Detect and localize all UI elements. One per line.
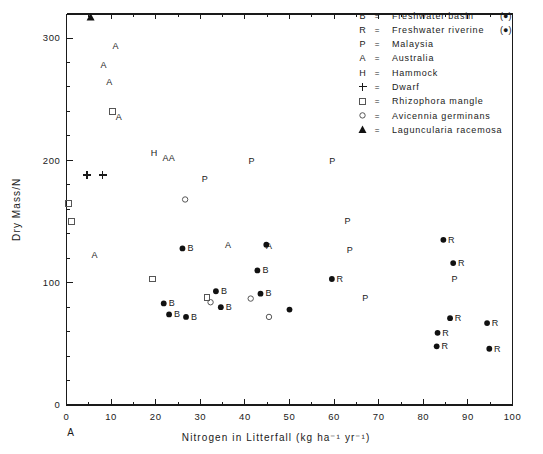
data-point-filled-circle: [440, 237, 446, 243]
x-tick-label: 60: [328, 411, 340, 422]
data-point-letter-a: A: [225, 240, 231, 250]
data-point-filled-circle: [166, 312, 172, 318]
y-axis-title: Dry Mass/N: [11, 178, 22, 241]
legend-equals: =: [375, 12, 380, 21]
data-point-open-square: [204, 294, 210, 300]
data-point-letter-b: B: [221, 286, 227, 296]
data-point-open-circle: [248, 296, 253, 301]
y-tick-label: 300: [43, 32, 61, 43]
data-point-letter-r: R: [442, 328, 449, 338]
data-point-letter-r: R: [448, 235, 455, 245]
legend-equals: =: [375, 54, 380, 63]
data-point-filled-circle: [254, 268, 260, 274]
data-point-letter-p: P: [202, 174, 208, 184]
x-tick-label: 10: [105, 411, 117, 422]
data-point-letter-r: R: [494, 344, 501, 354]
data-point-letter-r: R: [337, 274, 344, 284]
legend-label: Dwarf: [392, 82, 420, 92]
data-point-letter-a: A: [92, 250, 98, 260]
data-point-letter-p: P: [452, 274, 458, 284]
legend-label: Laguncularia racemosa: [392, 125, 502, 135]
legend-symbol-open-circle: [360, 113, 365, 118]
data-point-letter-p: P: [347, 245, 353, 255]
data-point-letter-a: A: [169, 153, 175, 163]
data-point-open-square: [149, 276, 155, 282]
legend-equals: =: [375, 112, 380, 121]
x-tick-label: 50: [284, 411, 296, 422]
x-tick-label: 30: [194, 411, 206, 422]
data-point-filled-circle: [435, 330, 441, 336]
legend-equals: =: [375, 69, 380, 78]
data-point-letter-a: A: [113, 41, 119, 51]
data-point-letter-p: P: [249, 156, 255, 166]
data-point-open-circle: [182, 197, 187, 202]
data-point-letter-b: B: [226, 302, 232, 312]
data-point-filled-circle: [486, 346, 492, 352]
x-tick-label: 40: [239, 411, 251, 422]
data-point-letter-r: R: [458, 258, 465, 268]
data-point-filled-circle: [434, 343, 440, 349]
legend-label: Hammock: [392, 68, 438, 78]
data-point-open-square: [69, 219, 75, 225]
data-point-letter-b: B: [169, 298, 175, 308]
legend-symbol-plus: [359, 83, 367, 91]
data-point-letter-a: A: [116, 112, 122, 122]
legend-label: Malaysia: [392, 39, 434, 49]
panel-label: A: [67, 427, 74, 438]
data-point-letter-r: R: [455, 313, 462, 323]
legend-note: (●): [500, 25, 511, 35]
data-point-filled-circle: [287, 307, 293, 313]
data-point-letter-r: R: [441, 341, 448, 351]
legend-symbol-open-square: [360, 98, 366, 104]
x-tick-label: 0: [64, 411, 70, 422]
data-point-open-circle: [208, 300, 213, 305]
data-point-filled-circle: [258, 291, 264, 297]
x-axis-title: Nitrogen in Litterfall (kg ha⁻¹ yr⁻¹): [182, 432, 371, 443]
data-point-letter-r: R: [492, 318, 499, 328]
legend-equals: =: [375, 126, 380, 135]
legend-note: (●): [500, 11, 511, 21]
legend-label: Avicennia germinans: [392, 111, 491, 121]
legend-label: Australia: [392, 53, 434, 63]
data-point-filled-circle: [447, 315, 453, 321]
data-point-letter-h: H: [151, 148, 158, 158]
legend-label: Freshwater riverine: [392, 25, 484, 35]
data-point-letter-b: B: [187, 243, 193, 253]
data-point-filled-circle: [450, 260, 456, 266]
legend-symbol-r: R: [359, 25, 366, 35]
x-tick-label: 70: [373, 411, 385, 422]
legend-label: Rhizophora mangle: [392, 96, 484, 106]
data-point-plus: [83, 171, 91, 179]
data-point-letter-b: B: [266, 288, 272, 298]
data-point-plus: [99, 171, 107, 179]
data-point-filled-circle: [329, 276, 335, 282]
data-point-letter-b: B: [262, 265, 268, 275]
data-point-open-circle: [266, 314, 271, 319]
y-tick-label: 100: [43, 277, 61, 288]
x-tick-label: 80: [417, 411, 429, 422]
x-tick-label: 20: [150, 411, 162, 422]
data-point-letter-a: A: [163, 153, 169, 163]
x-tick-label: 100: [504, 411, 522, 422]
figure-container: 01020304050607080901001002003000Nitrogen…: [0, 0, 543, 454]
legend-equals: =: [375, 40, 380, 49]
y-origin-label: 0: [55, 399, 61, 410]
data-point-filled-circle: [180, 246, 186, 252]
data-point-filled-circle: [263, 242, 269, 248]
x-tick-label: 90: [462, 411, 474, 422]
scatter-plot: 01020304050607080901001002003000Nitrogen…: [0, 0, 543, 454]
data-point-filled-circle: [183, 314, 189, 320]
data-point-letter-b: B: [174, 309, 180, 319]
data-point-filled-circle: [218, 304, 224, 310]
legend-symbol-p: P: [359, 39, 365, 49]
legend-equals: =: [375, 97, 380, 106]
legend-symbol-b: B: [359, 11, 365, 21]
data-point-letter-a: A: [106, 77, 112, 87]
data-point-filled-circle: [161, 301, 167, 307]
data-point-letter-a: A: [101, 60, 107, 70]
data-point-letter-p: P: [329, 156, 335, 166]
data-point-letter-p: P: [362, 293, 368, 303]
data-point-letter-p: P: [344, 216, 350, 226]
data-point-filled-circle: [484, 320, 490, 326]
y-tick-label: 200: [43, 155, 61, 166]
